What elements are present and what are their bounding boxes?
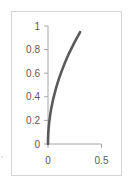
y-tick-label: 1 — [34, 21, 40, 32]
series-layer — [48, 32, 80, 144]
y-tick-label: 0.8 — [26, 44, 40, 55]
series-line — [48, 32, 80, 144]
x-tick-label: 0.5 — [95, 155, 109, 166]
x-axis: 00.5 — [45, 144, 109, 166]
x-tick-label: 0 — [45, 155, 51, 166]
y-tick-label: 0.4 — [26, 91, 40, 102]
y-tick-label: 0.2 — [26, 115, 40, 126]
y-tick-label: 0.6 — [26, 68, 40, 79]
y-tick-label: 0 — [34, 139, 40, 150]
line-chart: 00.20.40.60.81 00.5 — [0, 0, 134, 185]
y-axis: 00.20.40.60.81 — [26, 21, 48, 150]
